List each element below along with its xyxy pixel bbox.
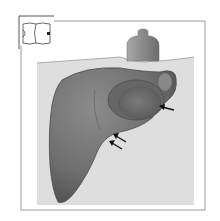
- illustration-frame: [0, 0, 220, 221]
- body-orientation-icon: [17, 15, 54, 49]
- liver-diagram: [0, 0, 220, 221]
